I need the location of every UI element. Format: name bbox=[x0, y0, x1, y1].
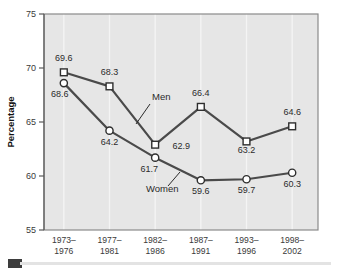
marker-women-3 bbox=[197, 177, 204, 184]
marker-women-5 bbox=[289, 169, 296, 176]
x-tick-label-2: 1982– bbox=[143, 235, 167, 245]
x-tick-label-5: 1998– bbox=[280, 235, 304, 245]
y-tick-75: 75 bbox=[26, 9, 36, 19]
x-axis-tick-labels: 1973–19761977–19811982–19861987–19911993… bbox=[52, 235, 304, 256]
value-label-women-1: 64.2 bbox=[101, 137, 119, 147]
marker-women-2 bbox=[152, 154, 159, 161]
value-label-women-0: 68.6 bbox=[51, 89, 69, 99]
line-chart: 7570656055 Percentage 1973–19761977–1981… bbox=[0, 0, 341, 273]
marker-men-2 bbox=[152, 141, 159, 148]
x-tick-label-2: 1986 bbox=[146, 246, 165, 256]
series-annotation-women: Women bbox=[146, 183, 179, 194]
x-tick-label-0: 1976 bbox=[54, 246, 73, 256]
value-label-men-5: 64.6 bbox=[283, 107, 301, 117]
x-tick-label-4: 1996 bbox=[237, 246, 256, 256]
marker-men-5 bbox=[289, 123, 296, 130]
y-axis-tick-labels: 7570656055 bbox=[26, 9, 36, 235]
value-label-men-1: 68.3 bbox=[101, 67, 119, 77]
x-tick-label-5: 2002 bbox=[283, 246, 302, 256]
value-label-men-3: 66.4 bbox=[192, 88, 210, 98]
value-label-women-5: 60.3 bbox=[283, 179, 301, 189]
value-label-women-4: 59.7 bbox=[238, 185, 256, 195]
marker-men-0 bbox=[60, 69, 67, 76]
marker-men-4 bbox=[243, 138, 250, 145]
marker-men-1 bbox=[106, 83, 113, 90]
y-tick-55: 55 bbox=[26, 225, 36, 235]
marker-men-3 bbox=[197, 103, 204, 110]
value-label-men-4: 63.2 bbox=[238, 145, 256, 155]
value-label-men-0: 69.6 bbox=[55, 53, 73, 63]
y-tick-65: 65 bbox=[26, 117, 36, 127]
value-label-women-2: 61.7 bbox=[140, 164, 158, 174]
chart-figure: 7570656055 Percentage 1973–19761977–1981… bbox=[0, 0, 341, 273]
value-label-men-2: 62.9 bbox=[172, 141, 190, 151]
y-tick-70: 70 bbox=[26, 63, 36, 73]
series-annotation-men: Men bbox=[152, 91, 170, 102]
footer-divider bbox=[20, 262, 331, 265]
x-tick-label-3: 1987– bbox=[189, 235, 213, 245]
y-axis-title: Percentage bbox=[5, 96, 16, 147]
x-tick-label-1: 1977– bbox=[98, 235, 122, 245]
marker-women-1 bbox=[106, 127, 113, 134]
y-axis bbox=[39, 14, 44, 230]
value-label-women-3: 59.6 bbox=[192, 186, 210, 196]
marker-women-0 bbox=[60, 80, 67, 87]
x-tick-label-3: 1991 bbox=[191, 246, 210, 256]
y-tick-60: 60 bbox=[26, 171, 36, 181]
marker-women-4 bbox=[243, 176, 250, 183]
x-tick-label-1: 1981 bbox=[100, 246, 119, 256]
x-tick-label-4: 1993– bbox=[235, 235, 259, 245]
x-tick-label-0: 1973– bbox=[52, 235, 76, 245]
